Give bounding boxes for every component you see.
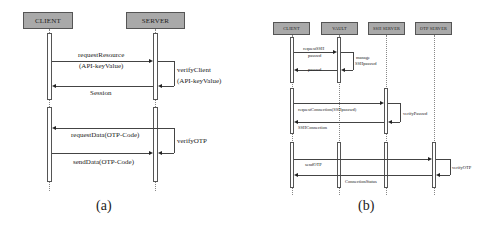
arrow-request-connection — [294, 103, 380, 104]
arrow-request-data — [56, 128, 174, 129]
arrowhead-icon — [436, 173, 440, 177]
arrowhead-icon — [294, 68, 298, 72]
arrow-ssh-connection — [298, 122, 384, 123]
label-request-connection: requestConnection(SSHpasswd) — [298, 107, 356, 112]
label-manage-2: SSHpasswd — [355, 61, 377, 66]
label-passwd: passwd — [308, 67, 321, 72]
self-loop-manage-top — [341, 52, 353, 53]
participant-client: CLIENT — [23, 12, 73, 29]
self-loop-verify-otp-bottom — [162, 153, 174, 154]
self-loop-verify-otp-b-top — [436, 159, 450, 160]
participant-client-b: CLIENT — [273, 22, 310, 35]
label-verify-otp-a: verifyOTP — [177, 137, 207, 145]
arrow-send-data — [52, 153, 149, 154]
activation-otp-server-3 — [432, 142, 436, 188]
arrowhead-icon — [158, 84, 162, 88]
activation-server-2 — [153, 107, 158, 182]
arrowhead-icon — [388, 120, 392, 124]
activation-vault-3 — [337, 142, 341, 188]
arrow-send-otp — [294, 159, 428, 160]
self-loop-verify-otp-side — [174, 128, 175, 153]
self-loop-verify-passwd-side — [400, 103, 401, 122]
arrowhead-icon — [294, 173, 298, 177]
label-send-otp: sendOTP — [305, 162, 322, 167]
activation-client-1 — [47, 33, 52, 100]
label-request-data: requestData(OTP-Code) — [71, 131, 139, 139]
label-connection-status: ConnectionStatus — [345, 179, 377, 184]
self-loop-verify-otp-b-bottom — [440, 175, 450, 176]
label-request-ssh-1: requestSSH — [303, 46, 324, 51]
label-request-ssh-2: passwd — [308, 53, 321, 58]
activation-client-b-2 — [290, 88, 294, 134]
self-loop-verify-client-top — [158, 61, 174, 62]
label-session: Session — [90, 89, 111, 97]
self-loop-verify-client-bottom — [162, 86, 174, 87]
arrowhead-icon — [149, 59, 153, 63]
self-loop-verify-passwd-bottom — [392, 122, 400, 123]
label-verify-passwd: verifyPasswd — [403, 111, 427, 116]
label-verify-client-1: verifyClient — [177, 66, 211, 74]
activation-client-2 — [47, 107, 52, 182]
caption-a: (a) — [96, 198, 112, 214]
participant-otp-server: OTP SERVER — [415, 22, 452, 35]
label-verify-otp-b: verifyOTP — [452, 165, 471, 170]
label-send-data: sendData(OTP-Code) — [73, 158, 134, 166]
participant-server: SERVER — [126, 12, 185, 29]
self-loop-verify-otp-b-side — [450, 159, 451, 175]
arrowhead-icon — [341, 68, 345, 72]
arrowhead-icon — [333, 50, 337, 54]
arrowhead-icon — [158, 151, 162, 155]
label-ssh-connection: SSHConnection — [298, 125, 327, 130]
activation-vault-1 — [337, 37, 341, 83]
label-request-resource-2: (API-keyValue) — [79, 62, 123, 70]
activation-server-1 — [153, 33, 158, 100]
caption-b: (b) — [358, 198, 374, 214]
arrow-session — [56, 86, 153, 87]
arrow-connection-status — [298, 175, 432, 176]
arrowhead-icon — [428, 157, 432, 161]
activation-client-b-1 — [290, 37, 294, 83]
arrowhead-icon — [294, 120, 298, 124]
self-loop-manage-side — [353, 52, 354, 70]
label-verify-client-2: (API-keyValue) — [177, 77, 221, 85]
arrowhead-icon — [52, 84, 56, 88]
activation-ssh-server-3 — [384, 142, 388, 188]
label-manage-1: manage — [356, 55, 370, 60]
self-loop-verify-client-side — [174, 61, 175, 86]
self-loop-manage-bottom — [345, 70, 353, 71]
activation-client-b-3 — [290, 142, 294, 188]
activation-ssh-server-2 — [384, 88, 388, 134]
arrowhead-icon — [149, 151, 153, 155]
self-loop-verify-passwd-top — [388, 103, 400, 104]
participant-ssh-server: SSH SERVER — [368, 22, 405, 35]
participant-vault: VAULT — [321, 22, 358, 35]
label-request-resource-1: requestResource — [78, 51, 124, 59]
arrowhead-icon — [52, 126, 56, 130]
arrowhead-icon — [380, 101, 384, 105]
